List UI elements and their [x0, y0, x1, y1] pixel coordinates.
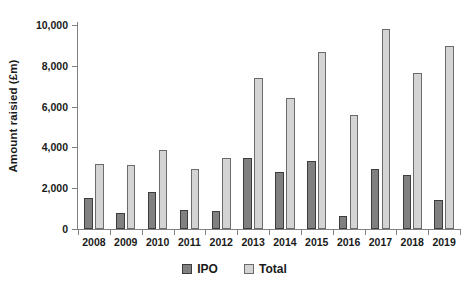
y-tick-label: 4,000 [42, 141, 68, 153]
x-tick-mark [110, 230, 111, 235]
x-tick-mark [333, 230, 334, 235]
y-tick-label: 6,000 [42, 101, 68, 113]
y-axis-title: Amount raisied (£m) [0, 0, 26, 232]
legend-swatch-ipo-icon [182, 264, 192, 274]
bar-ipo-2012 [212, 211, 220, 229]
bar-chart: Amount raisied (£m) 02,0004,0006,0008,00… [0, 0, 469, 291]
bar-ipo-2017 [371, 169, 379, 229]
legend-item-ipo[interactable]: IPO [182, 262, 218, 276]
bar-ipo-2009 [116, 213, 124, 229]
chart-legend: IPOTotal [0, 262, 469, 276]
x-tick-label: 2017 [369, 236, 392, 248]
bar-total-2019 [445, 46, 453, 229]
x-tick-label: 2018 [401, 236, 424, 248]
x-tick-mark [142, 230, 143, 235]
x-tick-mark [396, 230, 397, 235]
legend-label: IPO [197, 262, 218, 276]
bar-ipo-2013 [243, 158, 251, 229]
x-tick-mark [269, 230, 270, 235]
x-tick-label: 2019 [432, 236, 455, 248]
bar-total-2012 [222, 158, 230, 229]
bar-total-2017 [382, 29, 390, 229]
bar-total-2015 [318, 52, 326, 229]
x-tick-mark [237, 230, 238, 235]
bar-total-2014 [286, 98, 294, 229]
bar-ipo-2018 [403, 175, 411, 229]
bar-ipo-2019 [434, 200, 442, 229]
bar-total-2018 [413, 73, 421, 229]
x-tick-label: 2015 [305, 236, 328, 248]
legend-item-total[interactable]: Total [244, 262, 287, 276]
y-tick-label: 2,000 [42, 182, 68, 194]
x-tick-mark [174, 230, 175, 235]
x-tick-label: 2008 [82, 236, 105, 248]
bar-total-2016 [350, 115, 358, 229]
x-tick-label: 2010 [146, 236, 169, 248]
x-tick-mark [78, 230, 79, 235]
bar-ipo-2016 [339, 216, 347, 229]
x-tick-mark [460, 230, 461, 235]
bar-total-2011 [191, 169, 199, 229]
x-tick-mark [428, 230, 429, 235]
bar-total-2009 [127, 165, 135, 229]
y-tick-label: 10,000 [36, 19, 68, 31]
x-tick-label: 2014 [273, 236, 296, 248]
bar-total-2008 [95, 164, 103, 229]
bar-ipo-2010 [148, 192, 156, 229]
x-tick-label: 2009 [114, 236, 137, 248]
bar-ipo-2015 [307, 161, 315, 229]
x-tick-mark [301, 230, 302, 235]
x-tick-mark [205, 230, 206, 235]
legend-swatch-total-icon [244, 264, 254, 274]
bar-total-2010 [159, 150, 167, 229]
y-tick-label: 8,000 [42, 60, 68, 72]
x-tick-mark [365, 230, 366, 235]
bar-ipo-2008 [84, 198, 92, 229]
y-tick-label: 0 [62, 223, 68, 235]
bar-total-2013 [254, 78, 262, 229]
x-tick-label: 2012 [210, 236, 233, 248]
x-tick-label: 2011 [178, 236, 201, 248]
x-tick-label: 2013 [241, 236, 264, 248]
bar-ipo-2014 [275, 172, 283, 229]
legend-label: Total [259, 262, 287, 276]
bar-ipo-2011 [180, 210, 188, 229]
x-tick-label: 2016 [337, 236, 360, 248]
